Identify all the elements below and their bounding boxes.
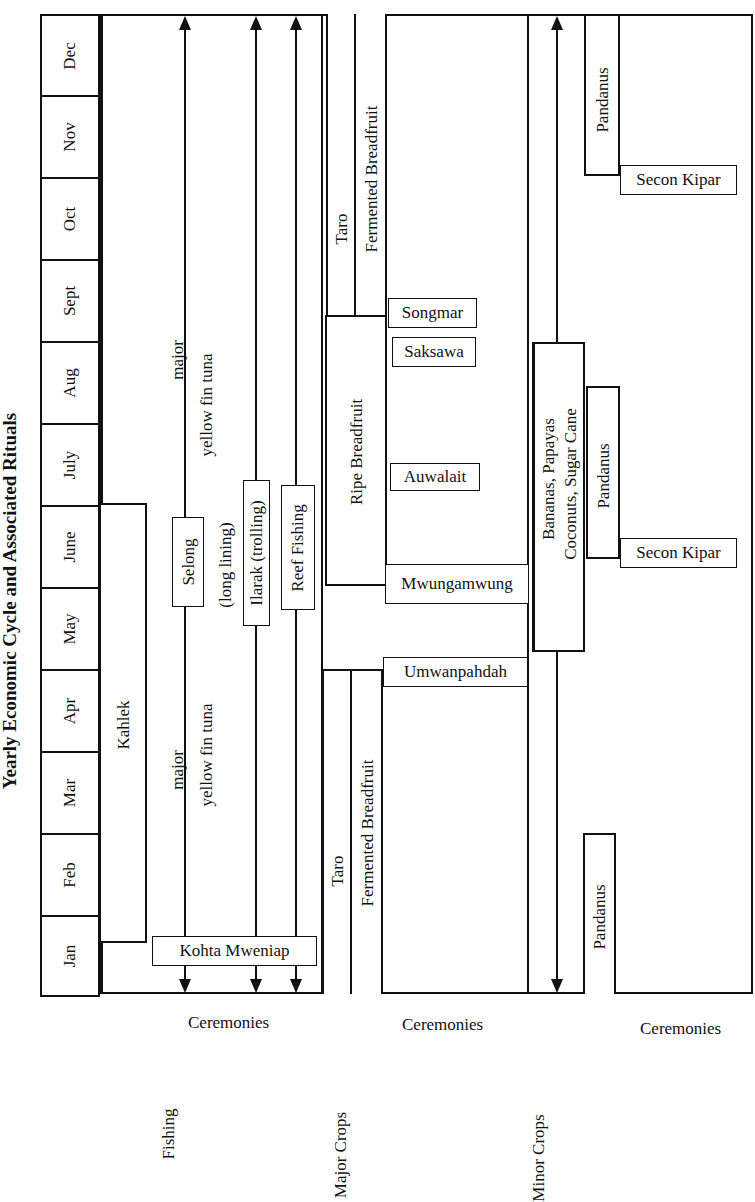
pandanus-top-bar: Pandanus xyxy=(584,16,620,176)
major-crops-section-label: Major Crops xyxy=(332,1112,349,1198)
arrow-up-icon xyxy=(290,16,302,30)
minor-crops-ceremonies-label: Ceremonies xyxy=(640,1020,721,1037)
arrow-down-icon xyxy=(250,979,262,993)
main-frame xyxy=(99,14,753,994)
tuna-top-species-label: yellow fin tuna xyxy=(198,354,215,457)
reef-fishing-box: Reef Fishing xyxy=(281,485,315,610)
pandanus-mid-bar: Pandanus xyxy=(586,386,620,559)
month-jan: Jan xyxy=(40,915,100,997)
month-nov: Nov xyxy=(40,95,100,179)
taro-bottom-bar: Taro xyxy=(322,669,352,994)
kahlek-bar: Kahlek xyxy=(101,503,147,943)
arrow-up-icon xyxy=(179,16,191,30)
ceremony-mwungamwung: Mwungamwung xyxy=(385,564,529,604)
ceremony-umwanpahdah: Umwanpahdah xyxy=(383,657,528,687)
major-crops-ceremonies-label: Ceremonies xyxy=(402,1016,483,1033)
ceremony-kohta-mweniap: Kohta Mweniap xyxy=(152,936,317,966)
taro-top-bar: Taro xyxy=(326,14,356,317)
arrow-down-icon xyxy=(290,979,302,993)
month-may: May xyxy=(40,587,100,671)
month-mar: Mar xyxy=(40,751,100,835)
ceremony-songmar: Songmar xyxy=(388,298,477,328)
selong-note: (long lining) xyxy=(217,522,234,607)
tuna-season-line xyxy=(184,26,186,981)
ceremony-saksawa: Saksawa xyxy=(392,337,476,367)
month-aug: Aug xyxy=(40,341,100,425)
fermented-breadfruit-bottom-bar: Fermented Breadfruit xyxy=(350,669,383,994)
ripe-breadfruit-bar: Ripe Breadfruit xyxy=(325,315,387,586)
ceremony-secon-kipar-mid: Secon Kipar xyxy=(620,538,737,568)
month-dec: Dec xyxy=(40,14,100,97)
ceremony-secon-kipar-top: Secon Kipar xyxy=(620,165,737,195)
pandanus-bottom-bar: Pandanus xyxy=(583,833,616,994)
arrow-up-icon xyxy=(250,16,262,30)
ilarak-box: Ilarak (trolling) xyxy=(243,480,270,626)
tuna-bottom-major-label: major xyxy=(169,750,186,790)
tuna-top-major-label: major xyxy=(169,340,186,380)
month-sept: Sept xyxy=(40,259,100,343)
fishing-section-label: Fishing xyxy=(160,1108,177,1159)
diagram-title: Yearly Economic Cycle and Associated Rit… xyxy=(0,361,21,841)
bananas-papayas-box: Bananas, Papayas Coconuts, Sugar Cane xyxy=(532,342,585,652)
month-feb: Feb xyxy=(40,833,100,917)
major-minor-divider xyxy=(527,14,529,994)
month-oct: Oct xyxy=(40,177,100,261)
fishing-ceremonies-label: Ceremonies xyxy=(188,1014,269,1031)
arrow-down-icon xyxy=(179,979,191,993)
month-apr: Apr xyxy=(40,669,100,753)
month-july: July xyxy=(40,423,100,507)
arrow-up-icon xyxy=(551,16,563,30)
arrow-down-icon xyxy=(551,979,563,993)
fermented-breadfruit-top-bar: Fermented Breadfruit xyxy=(354,14,387,317)
month-june: June xyxy=(40,505,100,589)
tuna-bottom-species-label: yellow fin tuna xyxy=(198,704,215,807)
selong-box: Selong xyxy=(172,517,204,607)
ceremony-auwalait: Auwalait xyxy=(390,463,480,491)
minor-crops-section-label: Minor Crops xyxy=(530,1114,547,1201)
